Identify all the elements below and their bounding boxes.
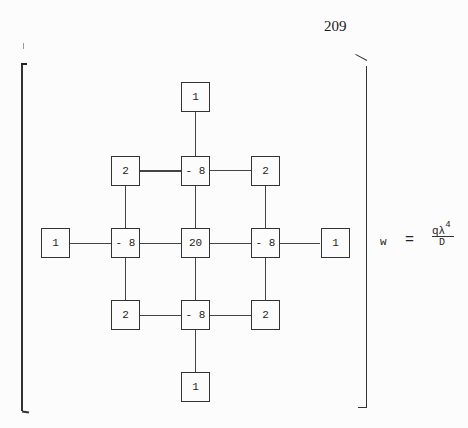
link-upper-left-to-upper-mid <box>140 170 181 172</box>
stencil-node-upper-left: 2 <box>111 156 140 186</box>
stencil-node-lower-left: 2 <box>111 300 140 330</box>
numerator-text: qλ <box>432 225 445 237</box>
exponent: 4 <box>445 220 450 230</box>
link-upper-right-to-mid-right <box>265 185 266 228</box>
equation-equals: = <box>405 232 414 249</box>
right-bracket <box>365 66 367 408</box>
link-mid-left-to-center <box>140 243 181 244</box>
stencil-node-upper-mid: - 8 <box>181 156 210 186</box>
stencil-node-upper-right: 2 <box>251 156 280 186</box>
stencil-node-far-right: 1 <box>321 228 350 258</box>
link-top-to-upper-mid <box>195 112 196 156</box>
link-lower-left-to-lower-mid <box>140 315 181 316</box>
stencil-node-mid-right: - 8 <box>251 228 280 258</box>
left-bracket <box>21 63 31 411</box>
link-upper-mid-to-upper-right <box>210 170 251 171</box>
link-center-to-lower-mid <box>195 258 196 300</box>
stencil-node-top: 1 <box>181 82 210 112</box>
stencil-node-center: 20 <box>181 228 210 258</box>
link-mid-right-to-lower-right <box>265 258 266 300</box>
equation-fraction: qλ4 D <box>432 222 456 248</box>
link-mid-right-to-far-right <box>280 243 320 244</box>
page-number: 209 <box>324 18 347 35</box>
stencil-node-lower-mid: - 8 <box>181 300 210 330</box>
equation-numerator: qλ4 <box>432 222 456 237</box>
link-upper-mid-to-center <box>195 186 196 228</box>
stencil-node-lower-right: 2 <box>251 300 280 330</box>
link-upper-left-to-mid-left <box>125 185 126 228</box>
link-far-left-to-mid-left <box>70 243 111 244</box>
stencil-node-mid-left: - 8 <box>111 228 140 258</box>
stencil-node-bottom: 1 <box>181 372 210 402</box>
link-lower-mid-to-lower-right <box>210 315 251 316</box>
link-center-to-mid-right <box>210 243 251 244</box>
link-mid-left-to-lower-left <box>125 258 126 300</box>
margin-tick-mark <box>23 43 24 49</box>
equation-denominator: D <box>432 237 452 248</box>
stencil-node-far-left: 1 <box>41 228 70 258</box>
equation-lhs: w <box>380 236 387 248</box>
link-lower-mid-to-bottom <box>195 330 196 372</box>
